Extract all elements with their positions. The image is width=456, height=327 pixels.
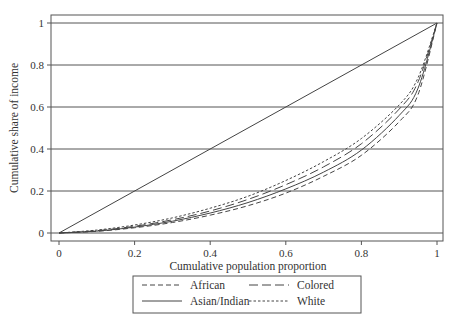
- y-tick-label: 0.6: [30, 101, 44, 113]
- y-tick-label: 0.2: [30, 185, 44, 197]
- y-tick-label: 1: [39, 17, 45, 29]
- legend-label-african: African: [190, 279, 225, 291]
- x-axis: 00.20.40.60.81: [56, 241, 440, 259]
- x-tick-label: 1: [434, 247, 440, 259]
- y-tick-label: 0.8: [30, 59, 44, 71]
- x-tick-label: 0.2: [128, 247, 142, 259]
- legend-label-asian-indian: Asian/Indian: [190, 295, 250, 307]
- x-axis-title: Cumulative population proportion: [169, 260, 326, 273]
- y-tick-label: 0.4: [30, 143, 44, 155]
- y-tick-label: 0: [39, 227, 45, 239]
- y-axis: 00.20.40.60.81: [30, 17, 51, 239]
- x-tick-label: 0.4: [203, 247, 217, 259]
- y-axis-title: Cumulative share of income: [8, 63, 20, 193]
- lorenz-chart: 00.20.40.60.81 00.20.40.60.81 Cumulative…: [0, 0, 456, 327]
- legend-label-white: White: [297, 295, 325, 307]
- series-group: [59, 23, 437, 233]
- x-tick-label: 0.6: [279, 247, 293, 259]
- x-tick-label: 0.8: [355, 247, 369, 259]
- x-tick-label: 0: [56, 247, 62, 259]
- legend-label-colored: Colored: [297, 279, 334, 291]
- legend: AfricanColoredAsian/IndianWhite: [133, 276, 361, 313]
